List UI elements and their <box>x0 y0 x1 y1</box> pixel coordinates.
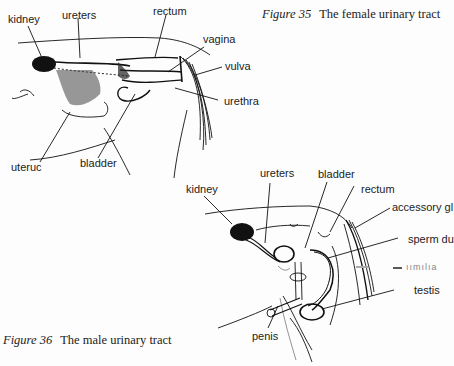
label-penis: penis <box>252 331 278 342</box>
label-testis: testis <box>414 285 440 296</box>
label-accessory-gland: accessory gl <box>392 202 453 213</box>
label-vagina: vagina <box>203 34 235 45</box>
label-uterus: uteruc <box>11 162 42 173</box>
label-urethra-female: urethra <box>224 96 259 107</box>
label-urethra-male-faded: ıımılıa <box>406 263 438 272</box>
label-ureters-female: ureters <box>62 10 96 21</box>
label-ureters-male: ureters <box>260 168 294 179</box>
figure-36-number: Figure 36 <box>3 333 52 347</box>
kidney-shape-male <box>230 223 254 241</box>
figure-36-title: The male urinary tract <box>60 333 171 347</box>
label-bladder-female: bladder <box>80 158 117 169</box>
label-kidney-male: kidney <box>186 184 218 195</box>
label-bladder-male: bladder <box>318 169 355 180</box>
label-sperm-duct: sperm du <box>408 234 454 245</box>
label-rectum-male: rectum <box>361 184 395 195</box>
figure-35-title: The female urinary tract <box>319 7 440 21</box>
figure-35-number: Figure 35 <box>262 7 311 21</box>
label-rectum-female: rectum <box>153 6 187 17</box>
label-kidney-female: kidney <box>8 14 40 25</box>
document-page: kidney ureters rectum vagina vulva ureth… <box>0 0 454 366</box>
label-vulva: vulva <box>225 61 251 72</box>
figure-36-caption: Figure 36The male urinary tract <box>3 334 172 347</box>
figure-35-caption: Figure 35The female urinary tract <box>262 8 440 21</box>
kidney-shape-female <box>32 56 56 72</box>
